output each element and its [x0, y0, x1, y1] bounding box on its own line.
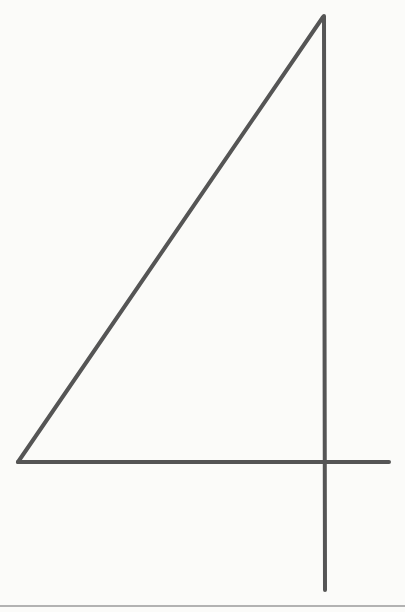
- numeral-four-drawing: [0, 0, 405, 612]
- vertical-stem-stroke: [324, 16, 325, 590]
- numeral-four-figure: [0, 0, 405, 612]
- diagonal-stroke: [18, 17, 323, 462]
